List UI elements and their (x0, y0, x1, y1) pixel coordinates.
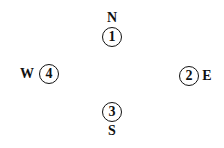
north-number: 1 (109, 30, 116, 44)
east-number-circle: 2 (179, 66, 199, 86)
west-number: 4 (46, 67, 53, 81)
south-number: 3 (109, 105, 116, 119)
south-number-circle: 3 (102, 102, 122, 122)
south-label: S (108, 124, 116, 138)
north-label: N (107, 11, 117, 25)
west-label: W (20, 67, 34, 81)
east-number: 2 (186, 69, 193, 83)
east-label: E (202, 69, 211, 83)
west-number-circle: 4 (39, 64, 59, 84)
north-number-circle: 1 (102, 27, 122, 47)
